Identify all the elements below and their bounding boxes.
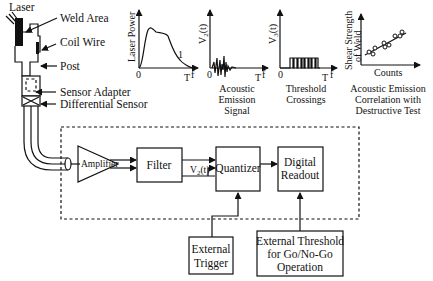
diagram-canvas: Laser Weld Area Coil Wire Post Sensor Ad… <box>0 0 433 281</box>
label-differential-sensor: Differential Sensor <box>60 98 148 110</box>
plot-threshold-crossings: V3(t) 0 T f Threshold Crossings <box>267 10 337 105</box>
cable-mid <box>31 106 68 164</box>
caption-line: Signal <box>224 105 250 116</box>
plot-correlation: Shear Strength of Weld Counts Acoustic E… <box>343 11 426 116</box>
plot-acoustic-emission: V2(t) 0 T f Acoustic Emission Signal <box>197 10 268 116</box>
threshold-label: for Go/No-Go <box>267 248 333 260</box>
weld-blob <box>15 18 23 46</box>
ylabel-line2: of Weld <box>352 30 363 62</box>
laser-power-ylabel: Laser Power <box>126 11 137 62</box>
caption-line: Crossings <box>286 94 326 105</box>
xlabel: Counts <box>374 67 402 78</box>
label-weld-area: Weld Area <box>60 12 109 24</box>
block-diagram: Amplifier Filter V2(t) Quantizer Digital… <box>61 127 359 276</box>
origin-label: 0 <box>207 69 212 80</box>
plot-laser-power: Laser Power 0 T f 1 <box>126 10 198 83</box>
coil-wire-icon <box>36 42 39 54</box>
label-coil-wire: Coil Wire <box>60 36 105 48</box>
threshold-label: External Threshold <box>256 235 344 247</box>
t-label: T <box>184 72 190 83</box>
cable-inner <box>38 106 68 158</box>
quantizer-label: Quantizer <box>215 162 261 174</box>
scatter-points <box>367 30 404 56</box>
readout-label: Readout <box>281 169 320 181</box>
caption-line: Threshold <box>286 83 327 94</box>
trigger-arrow <box>212 193 238 237</box>
caption-line: Emission <box>218 94 255 105</box>
v3-ylabel: V3(t) <box>267 24 280 44</box>
f-label: f <box>191 69 195 80</box>
f-label: f <box>330 69 334 80</box>
acoustic-emission-burst <box>212 56 236 77</box>
v2-signal-label: V2(t) <box>190 165 209 177</box>
caption-line: Acoustic Emission <box>350 83 425 94</box>
label-post: Post <box>60 60 81 72</box>
origin-label: 0 <box>136 69 141 80</box>
sensor-adapter-box <box>22 76 40 96</box>
threshold-label: Operation <box>277 261 323 274</box>
t-label: T <box>322 72 328 83</box>
cable-connector <box>65 158 71 170</box>
filter-label: Filter <box>147 159 172 171</box>
caption-line: Correlation with <box>355 94 421 105</box>
annotation-label: 1 <box>178 49 183 60</box>
trigger-label: Trigger <box>194 257 228 270</box>
origin-label: 0 <box>278 69 283 80</box>
trigger-label: External <box>192 243 231 255</box>
readout-label: Digital <box>284 156 316 169</box>
v2-ylabel: V2(t) <box>197 24 210 44</box>
laser-power-curve <box>139 28 192 68</box>
t-label: T <box>255 72 261 83</box>
f-label: f <box>262 69 266 80</box>
caption-line: Acoustic <box>219 83 255 94</box>
threshold-pulse-train <box>280 58 320 68</box>
label-laser: Laser <box>9 1 35 13</box>
caption-line: Destructive Test <box>356 105 421 116</box>
